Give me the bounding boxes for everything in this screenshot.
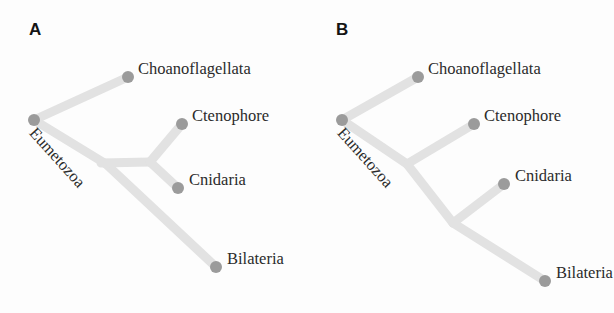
branch-root-to-choanoflagellata <box>342 77 418 120</box>
tip-label-choanoflagellata: Choanoflagellata <box>428 61 541 78</box>
phylogenetic-tree-figure: A E <box>0 0 614 313</box>
tip-label-bilateria: Bilateria <box>556 265 613 282</box>
branch-root-to-choanoflagellata <box>34 77 128 120</box>
node-tip-choanoflagellata <box>412 71 424 83</box>
node-tip-bilateria <box>210 261 222 273</box>
branch-cnidaria-bilateria-split-to-bilateria <box>453 223 545 281</box>
branch-eumetazoa-split-to-cnidaria-bilateria-split <box>407 164 453 223</box>
node-tip-ctenophore <box>176 118 188 130</box>
node-tip-choanoflagellata <box>122 71 134 83</box>
panel-a: A E <box>0 0 307 313</box>
tip-label-ctenophore: Ctenophore <box>484 108 561 125</box>
node-tip-bilateria <box>539 275 551 287</box>
branch-cnidaria-bilateria-split-to-cnidaria <box>453 184 504 223</box>
branch-eumetazoa-split-to-coelenterata-split <box>101 162 150 163</box>
tip-label-choanoflagellata: Choanoflagellata <box>138 61 251 78</box>
node-tip-cnidaria <box>172 182 184 194</box>
tip-label-bilateria: Bilateria <box>227 251 284 268</box>
branch-eumetazoa-split-to-ctenophore <box>407 124 474 164</box>
branch-coelenterata-split-to-ctenophore <box>150 124 182 162</box>
panel-b: B E <box>307 0 614 313</box>
tip-label-cnidaria: Cnidaria <box>515 168 572 185</box>
node-tip-ctenophore <box>468 118 480 130</box>
node-tip-cnidaria <box>498 178 510 190</box>
tip-label-cnidaria: Cnidaria <box>189 172 246 189</box>
tip-label-ctenophore: Ctenophore <box>192 108 269 125</box>
